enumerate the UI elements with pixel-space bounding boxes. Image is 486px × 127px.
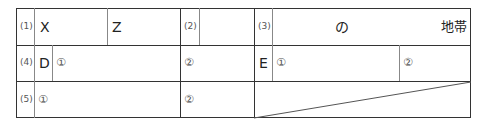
d-sub-1-marker: ① bbox=[56, 57, 66, 68]
answer-cell-q2[interactable] bbox=[200, 9, 253, 44]
q3-middle-text: の bbox=[335, 20, 349, 34]
e-label: E bbox=[259, 56, 268, 70]
question-2-label: (2) bbox=[184, 22, 197, 31]
q5-sub-2-marker: ② bbox=[184, 94, 194, 105]
q3-suffix-text: 地帯 bbox=[441, 20, 467, 33]
question-3-label: (3) bbox=[258, 22, 271, 31]
d-sub-2-marker: ② bbox=[184, 57, 194, 68]
answer-cell-z[interactable]: Z bbox=[112, 20, 122, 34]
e-sub-2-marker: ② bbox=[403, 57, 413, 68]
e-sub-1-marker: ① bbox=[276, 57, 286, 68]
q5-sub-1-marker: ① bbox=[38, 94, 48, 105]
answer-cell-x[interactable]: X bbox=[40, 20, 50, 34]
question-4-label: (4) bbox=[20, 58, 33, 67]
d-label: D bbox=[39, 56, 50, 70]
question-1-label: (1) bbox=[20, 22, 33, 31]
question-5-label: (5) bbox=[20, 95, 33, 104]
